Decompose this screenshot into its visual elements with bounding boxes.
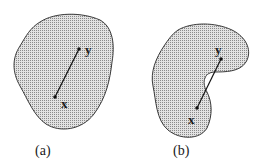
panel-a-shape (14, 14, 113, 129)
point-y-label-b: y (215, 43, 222, 56)
caption-a: (a) (35, 144, 51, 158)
point-y-label-a: y (85, 43, 92, 56)
point-y-a (77, 47, 81, 51)
panel-b-shape (152, 24, 248, 137)
point-x-b (195, 106, 199, 110)
point-x-a (53, 95, 57, 99)
point-x-label-b: x (188, 113, 195, 126)
figure-drawing (0, 0, 263, 163)
figure: y x (a) y x (b) (0, 0, 263, 163)
point-y-b (219, 57, 223, 61)
point-x-label-a: x (61, 97, 68, 110)
caption-b: (b) (173, 144, 189, 158)
